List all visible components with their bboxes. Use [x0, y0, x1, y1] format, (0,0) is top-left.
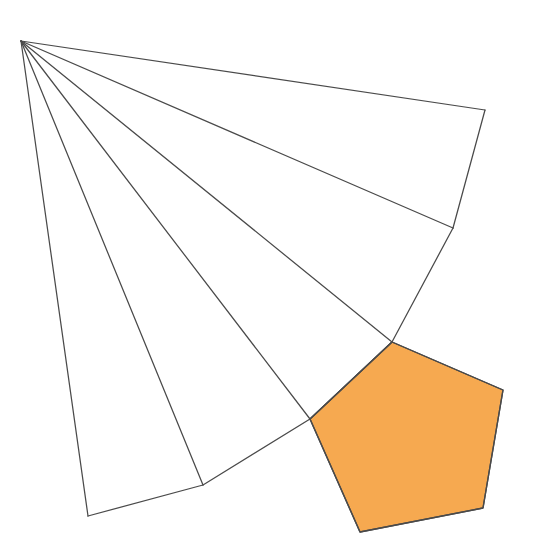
geometry-figure: Fan of triangular sectors with one highl…: [0, 0, 540, 553]
